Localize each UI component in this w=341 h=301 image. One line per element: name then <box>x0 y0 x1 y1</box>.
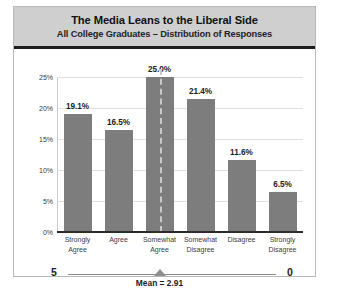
y-axis-tick: 20% <box>27 105 53 112</box>
scale-rule-line <box>68 274 276 275</box>
y-axis-tick: 25% <box>27 74 53 81</box>
scale-left-label: 5 <box>44 266 64 278</box>
x-axis-label-line: Agree <box>98 235 139 245</box>
x-axis-label-line: Disagree <box>262 245 303 255</box>
y-axis-tick: 15% <box>27 136 53 143</box>
x-axis-category-label: SomewhatAgree <box>139 235 180 254</box>
bar-value-label: 6.5% <box>273 180 292 189</box>
bar-slot: 11.6% <box>221 77 262 232</box>
mean-caption: Mean = 2.91 <box>136 278 183 288</box>
page-title: The Media Leans to the Liberal Side <box>71 14 258 27</box>
x-axis-label-line: Disagree <box>180 245 221 255</box>
bar[interactable] <box>64 114 92 232</box>
chart-subtitle: All College Graduates – Distribution of … <box>57 28 272 40</box>
x-axis-category-labels: StronglyAgreeAgreeSomewhatAgreeSomewhatD… <box>57 235 303 261</box>
chart-figure: The Media Leans to the Liberal Side All … <box>0 0 341 301</box>
bar-slot: 6.5% <box>262 77 303 232</box>
bar-series: 19.1%16.5%25.0%21.4%11.6%6.5% <box>57 77 303 232</box>
plot-area: 19.1%16.5%25.0%21.4%11.6%6.5% <box>57 77 303 232</box>
bar[interactable] <box>105 130 133 232</box>
x-axis-label-line: Somewhat <box>180 235 221 245</box>
mean-dashed-line <box>160 69 162 232</box>
x-axis-category-label: StronglyAgree <box>57 235 98 254</box>
y-axis-tick: 5% <box>27 198 53 205</box>
bar-value-label: 21.4% <box>189 87 212 96</box>
y-axis-tick: 0% <box>27 229 53 236</box>
bar-value-label: 11.6% <box>230 148 253 157</box>
y-axis-tick-labels: 0%5%10%15%20%25% <box>27 49 53 276</box>
mean-scale-annotation: 5 0 Mean = 2.91 <box>44 265 300 299</box>
x-axis-label-line: Agree <box>139 245 180 255</box>
x-axis-category-label: SomewhatDisagree <box>180 235 221 254</box>
y-axis-tick: 10% <box>27 167 53 174</box>
x-axis-label-line: Disagree <box>221 235 262 245</box>
x-axis-label-line: Agree <box>57 245 98 255</box>
bar-slot: 16.5% <box>98 77 139 232</box>
bar[interactable] <box>269 192 297 232</box>
x-axis-category-label: StronglyDisagree <box>262 235 303 254</box>
bar[interactable] <box>187 99 215 232</box>
x-axis-label-line: Somewhat <box>139 235 180 245</box>
bar[interactable] <box>228 160 256 232</box>
plot-region: 0%5%10%15%20%25% 19.1%16.5%25.0%21.4%11.… <box>14 49 315 276</box>
chart-card: The Media Leans to the Liberal Side All … <box>13 6 316 277</box>
bar-value-label: 16.5% <box>107 118 130 127</box>
bar-value-label: 19.1% <box>66 102 89 111</box>
x-axis-line <box>57 231 303 233</box>
x-axis-category-label: Agree <box>98 235 139 245</box>
x-axis-label-line: Strongly <box>57 235 98 245</box>
x-axis-label-line: Strongly <box>262 235 303 245</box>
x-axis-category-label: Disagree <box>221 235 262 245</box>
chart-header-band: The Media Leans to the Liberal Side All … <box>14 7 315 49</box>
mean-marker-triangle-icon <box>154 269 166 276</box>
bar-slot: 19.1% <box>57 77 98 232</box>
scale-right-label: 0 <box>280 266 300 278</box>
bar-slot: 21.4% <box>180 77 221 232</box>
